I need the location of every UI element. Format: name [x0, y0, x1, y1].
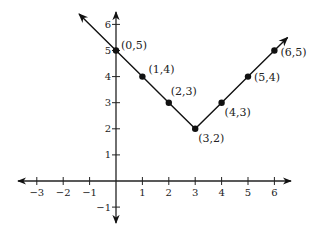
y-tick-label: 5 — [105, 45, 111, 56]
x-tick-label: −2 — [56, 187, 71, 198]
x-tick-label: 1 — [139, 187, 145, 198]
x-tick-label: 4 — [218, 187, 224, 198]
data-point — [139, 73, 145, 79]
y-tick-label: 1 — [105, 149, 111, 160]
y-tick-label: −1 — [96, 202, 111, 213]
x-tick-label: −1 — [82, 187, 97, 198]
point-label: (6,5) — [280, 46, 306, 59]
x-tick-label: 5 — [245, 187, 251, 198]
data-points: (0,5)(1,4)(2,3)(3,2)(4,3)(5,4)(6,5) — [113, 39, 307, 145]
data-point — [166, 100, 172, 106]
y-tick-label: 2 — [105, 123, 111, 134]
x-tick-label: 3 — [192, 187, 198, 198]
v-shaped-graph: −3−2−1123456 −1123456 (0,5)(1,4)(2,3)(3,… — [0, 0, 317, 234]
x-tick-label: 2 — [166, 187, 172, 198]
x-tick-label: −3 — [29, 187, 44, 198]
y-tick-label: 3 — [105, 97, 111, 108]
point-label: (1,4) — [148, 63, 174, 76]
point-label: (0,5) — [121, 39, 147, 52]
data-point — [245, 73, 251, 79]
y-tick-label: 4 — [105, 71, 111, 82]
y-tick-label: 6 — [105, 19, 111, 30]
x-tick-label: 6 — [271, 187, 277, 198]
point-label: (3,2) — [198, 132, 224, 145]
point-label: (4,3) — [225, 106, 251, 119]
point-label: (5,4) — [254, 71, 280, 84]
data-point — [271, 47, 277, 53]
x-ticks: −3−2−1123456 — [29, 177, 277, 198]
point-label: (2,3) — [171, 85, 197, 98]
data-point — [113, 47, 119, 53]
